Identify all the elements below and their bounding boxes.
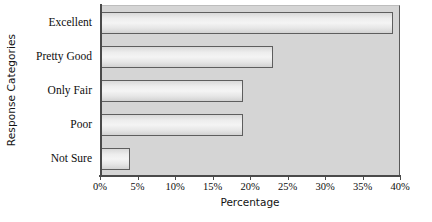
x-tick-mark-20% [250,175,251,180]
x-tick-label-35%: 35% [353,181,372,192]
x-tick-mark-40% [400,175,401,180]
y-axis-line [100,4,102,176]
y-tick-label-pretty-good: Pretty Good [36,50,92,62]
x-tick-label-10%: 10% [165,181,184,192]
x-tick-mark-35% [363,175,364,180]
x-tick-label-30%: 30% [315,181,334,192]
x-tick-mark-25% [288,175,289,180]
bar-poor [100,114,243,136]
bar-not-sure [100,148,130,170]
y-tick-label-poor: Poor [70,118,92,130]
x-tick-mark-15% [213,175,214,180]
x-tick-mark-0% [100,175,101,180]
x-tick-label-20%: 20% [240,181,259,192]
bar-chart: Response Categories ExcellentPretty Good… [0,0,432,222]
bar-only-fair [100,80,243,102]
y-axis-title-text: Response Categories [5,34,17,146]
x-tick-mark-5% [138,175,139,180]
x-tick-label-15%: 15% [203,181,222,192]
x-axis-title: Percentage [100,196,400,208]
y-axis-tick-labels: ExcellentPretty GoodOnly FairPoorNot Sur… [22,5,96,175]
x-tick-mark-30% [325,175,326,180]
y-tick-label-only-fair: Only Fair [48,84,92,96]
x-tick-label-0%: 0% [93,181,107,192]
y-tick-label-not-sure: Not Sure [51,152,92,164]
x-tick-label-25%: 25% [278,181,297,192]
x-tick-mark-10% [175,175,176,180]
x-tick-label-5%: 5% [131,181,145,192]
bar-pretty-good [100,46,273,68]
x-tick-label-40%: 40% [390,181,409,192]
bar-excellent [100,12,393,34]
y-axis-title: Response Categories [0,0,22,180]
y-tick-label-excellent: Excellent [49,16,92,28]
plot-area [100,5,400,175]
